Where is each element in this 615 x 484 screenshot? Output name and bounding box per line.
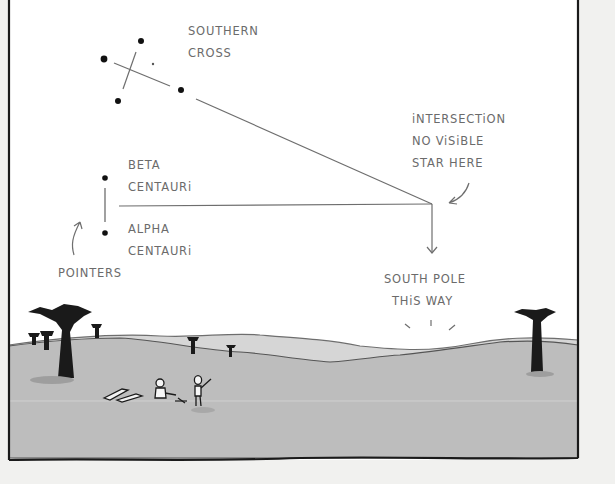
label-line: STAR HERE [412,152,506,174]
label-line: SOUTH POLE [384,268,466,290]
label-southern-cross: SOUTHERN CROSS [188,20,259,64]
label-line: THiS WAY [384,290,466,312]
label-south-pole: SOUTH POLE THiS WAY [384,268,466,312]
star-beta-centauri [102,175,108,181]
star-acrux [115,98,121,104]
night-sky-illustration [0,0,615,484]
label-pointers: POINTERS [58,268,122,280]
label-line: BETA [128,154,192,176]
star-epsilon-crucis [152,63,154,65]
star-mimosa [101,56,108,63]
star-alpha-centauri [102,230,108,236]
star-gacrux [138,38,144,44]
person-shadow [191,407,215,413]
label-line: iNTERSECTiON [412,108,506,130]
star-delta-crucis [178,87,184,93]
label-line: SOUTHERN [188,20,259,42]
label-beta-centauri: BETA CENTAURi [128,154,192,198]
label-alpha-centauri: ALPHA CENTAURi [128,218,192,262]
label-line: ALPHA [128,218,192,240]
label-line: NO ViSiBLE [412,130,506,152]
label-line: CENTAURi [128,176,192,198]
label-intersection: iNTERSECTiON NO ViSiBLE STAR HERE [412,108,506,174]
label-line: CENTAURi [128,240,192,262]
label-line: CROSS [188,42,259,64]
